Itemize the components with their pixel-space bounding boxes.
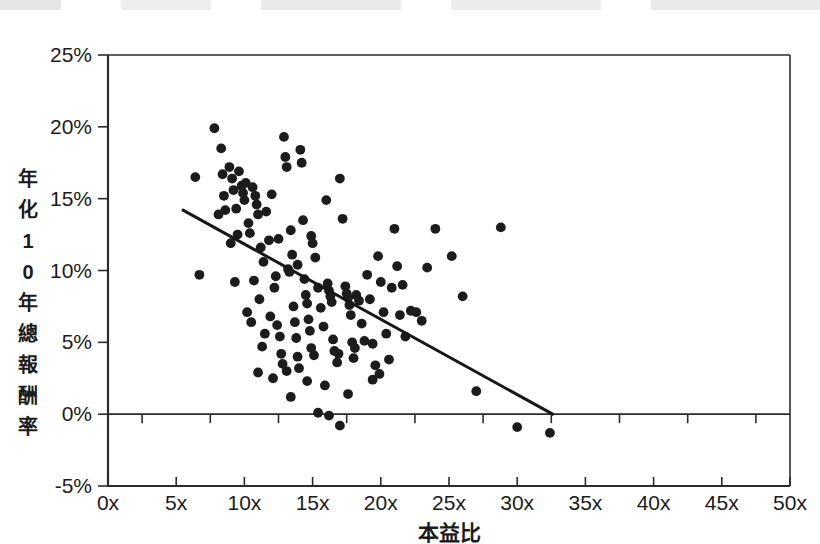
scatter-point [512, 422, 522, 432]
scatter-point [343, 389, 353, 399]
scatter-point [375, 369, 385, 379]
scatter-point [306, 231, 316, 241]
scatter-point [365, 294, 375, 304]
scatter-point [390, 224, 400, 234]
scatter-point [249, 276, 259, 286]
x-tick-label: 15x [296, 491, 330, 514]
y-axis-title-char: 年 [18, 291, 38, 314]
scatter-point [274, 234, 284, 244]
y-tick-label: 5% [62, 330, 92, 353]
scatter-point [327, 297, 337, 307]
scatter-point [209, 123, 219, 133]
scatter-point [194, 270, 204, 280]
scatter-point [411, 307, 421, 317]
scatter-point [392, 261, 402, 271]
scatter-point [253, 368, 263, 378]
x-axis-title: 本益比 [418, 521, 481, 544]
scatter-point [244, 218, 254, 228]
scatter-point [395, 310, 405, 320]
scatter-point [368, 339, 378, 349]
scatter-point [264, 235, 274, 245]
scatter-point [291, 333, 301, 343]
scatter-point [350, 343, 360, 353]
y-axis-title-char: 1 [22, 230, 33, 252]
y-axis-title-char: 化 [18, 198, 38, 221]
x-tick-label: 45x [705, 491, 739, 514]
scatter-point [310, 253, 320, 263]
scatter-point [248, 182, 258, 192]
scatter-point [302, 376, 312, 386]
scatter-point [267, 189, 277, 199]
scatter-point [227, 174, 237, 184]
y-axis-tick-labels: 25%20%15%10%5%0%-5% [50, 43, 92, 497]
scatter-point [373, 251, 383, 261]
scatter-point [309, 350, 319, 360]
y-axis-title-char: 0 [22, 261, 33, 283]
scatter-point [275, 332, 285, 342]
scatter-point [301, 290, 311, 300]
scatter-point [224, 162, 234, 172]
scatter-point [297, 158, 307, 168]
scatter-point [268, 373, 278, 383]
y-tick-label: 15% [50, 187, 92, 210]
scatter-points-layer [190, 123, 554, 437]
scatter-point [218, 169, 228, 179]
scatter-point [384, 355, 394, 365]
scatter-point [282, 366, 292, 376]
scatter-point [471, 386, 481, 396]
scatter-point [417, 316, 427, 326]
scatter-point [447, 251, 457, 261]
scatter-point [381, 329, 391, 339]
scatter-point [328, 335, 338, 345]
scatter-point [422, 263, 432, 273]
y-tick-label: 0% [62, 402, 92, 425]
scatter-point [257, 342, 267, 352]
scatter-point [305, 326, 315, 336]
y-axis-title-char: 報 [18, 354, 39, 376]
trendline [183, 210, 553, 414]
scatter-point [376, 277, 386, 287]
scatter-point [545, 428, 555, 438]
scatter-point [216, 143, 226, 153]
scatter-point [234, 166, 244, 176]
x-axis-minor-ticks [108, 414, 790, 486]
scatter-point [304, 314, 314, 324]
scatter-point [246, 317, 256, 327]
scatter-point [265, 312, 275, 322]
scatter-point [252, 200, 262, 210]
scatter-point [398, 280, 408, 290]
scatter-point [302, 299, 312, 309]
scatter-point [290, 317, 300, 327]
scatter-point [357, 319, 367, 329]
y-axis-ticks [98, 55, 108, 486]
x-tick-label: 30x [500, 491, 534, 514]
scatter-point [271, 271, 281, 281]
scatter-point [255, 294, 265, 304]
y-axis-title-char: 率 [18, 415, 38, 438]
x-tick-label: 0x [97, 491, 120, 514]
scatter-point [240, 195, 250, 205]
scatter-point [294, 363, 304, 373]
scatter-point [293, 260, 303, 270]
scatter-point [279, 132, 289, 142]
scatter-point [321, 195, 331, 205]
scatter-point [190, 172, 200, 182]
scatter-point [242, 307, 252, 317]
scatter-point [313, 408, 323, 418]
scatter-point [335, 421, 345, 431]
scatter-point [316, 303, 326, 313]
x-tick-label: 10x [227, 491, 261, 514]
scatter-point [250, 191, 260, 201]
scatter-point [282, 162, 292, 172]
y-axis-title: 年化10年總報酬率 [18, 167, 39, 438]
y-tick-label: 10% [50, 259, 92, 282]
scatter-point [346, 310, 356, 320]
y-tick-label: 25% [50, 43, 92, 66]
scatter-point [319, 322, 329, 332]
scatter-point [276, 349, 286, 359]
scatter-point [338, 214, 348, 224]
scatter-point [230, 277, 240, 287]
scatter-point [496, 223, 506, 233]
scatter-point [335, 174, 345, 184]
scatter-point [286, 225, 296, 235]
